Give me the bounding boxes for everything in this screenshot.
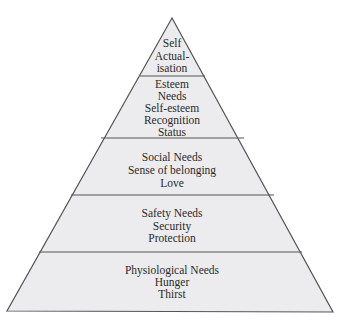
level-label: Protection bbox=[148, 232, 196, 244]
level-label: Status bbox=[158, 126, 187, 138]
level-label: isation bbox=[157, 62, 188, 74]
level-label: Esteem bbox=[155, 78, 189, 90]
level-label: Thirst bbox=[158, 288, 186, 300]
level-label: Needs bbox=[158, 90, 187, 102]
level-label: Actual- bbox=[155, 50, 190, 62]
level-label: Self-esteem bbox=[145, 102, 199, 114]
level-label: Social Needs bbox=[142, 151, 203, 163]
level-label: Love bbox=[160, 177, 184, 189]
level-label: Safety Needs bbox=[142, 207, 204, 220]
level-label: Sense of belonging bbox=[128, 164, 216, 177]
level-label: Self bbox=[163, 37, 182, 49]
pyramid-diagram: Self Actual- isation Esteem Needs Self-e… bbox=[0, 0, 347, 328]
